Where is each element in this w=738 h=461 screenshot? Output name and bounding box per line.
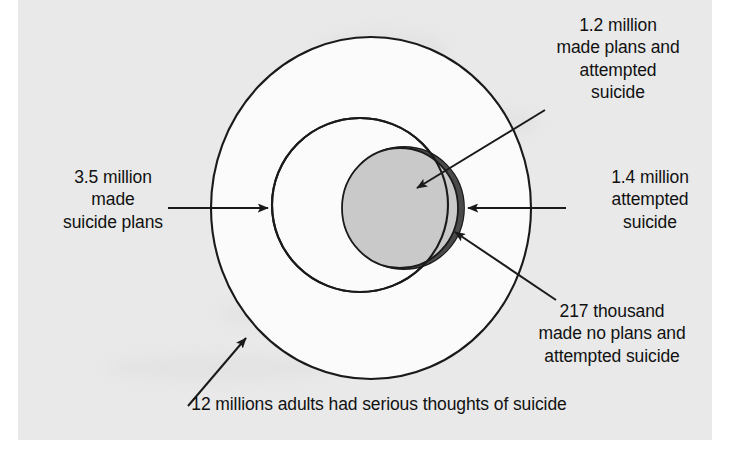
label-no-plans-and-attempted: 217 thousand made no plans and attempted… <box>498 300 726 367</box>
label-attempted-suicide: 1.4 million attempted suicide <box>566 166 734 233</box>
label-serious-thoughts-caption: 12 millions adults had serious thoughts … <box>148 393 610 415</box>
plans-and-attempted-circle <box>342 148 458 268</box>
label-made-plans-and-attempted: 1.2 million made plans and attempted sui… <box>520 14 716 104</box>
figure-page: 1.2 million made plans and attempted sui… <box>0 0 738 461</box>
label-made-suicide-plans: 3.5 million made suicide plans <box>20 166 206 233</box>
